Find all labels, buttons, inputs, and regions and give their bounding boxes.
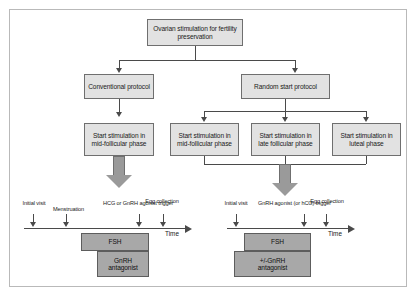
- timeline-left-bar-gnrh-antagonist-line2: antagonist: [108, 264, 137, 271]
- timeline-right-label-egg-collection-line2: collection: [321, 198, 343, 204]
- connector-random-stem: [285, 99, 286, 111]
- arrowhead-to-rand-mid: [201, 117, 207, 122]
- node-random-start-protocol-label: Random start protocol: [252, 83, 319, 90]
- timeline-right-bar-fsh: FSH: [244, 233, 311, 251]
- block-arrow-right-head: [272, 183, 298, 196]
- timeline-left-label-trigger-line1: HCG or GnRH: [103, 200, 138, 206]
- node-conventional-mid-follicular-label: Start stimulation in mid-follicular phas…: [85, 132, 153, 147]
- timeline-right-label-initial-visit-line1: Initial: [225, 200, 237, 206]
- timeline-left-axis-label: Time: [165, 230, 179, 237]
- timeline-right-tick-3-head: [323, 222, 329, 227]
- timeline-right-bar-gnrh-antagonist: +/-GnRH antagonist: [234, 251, 311, 277]
- block-arrow-right-shaft: [279, 164, 291, 184]
- timeline-right-axis-label: Time: [328, 230, 342, 237]
- timeline-right-bar-fsh-label: FSH: [271, 238, 284, 245]
- timeline-left-label-egg-collection-line2: collection: [156, 198, 178, 204]
- timeline-left-label-egg-collection-line1: Egg: [145, 198, 155, 204]
- timeline-left-axis-arrowhead: [185, 225, 192, 233]
- arrowhead-to-random: [292, 68, 298, 73]
- timeline-left-label-initial-visit-line1: Initial: [23, 200, 35, 206]
- timeline-right-tick-2-head: [301, 222, 307, 227]
- node-conventional-protocol-label: Conventional protocol: [86, 83, 152, 90]
- node-random-late-follicular: Start stimulation in late follicular pha…: [251, 123, 320, 156]
- node-random-start-protocol: Random start protocol: [241, 74, 330, 99]
- node-conventional-protocol: Conventional protocol: [84, 74, 154, 99]
- timeline-left-label-menstruation-line1: Menstruation: [53, 206, 84, 212]
- timeline-left-tick-3-head: [136, 222, 142, 227]
- node-conventional-mid-follicular: Start stimulation in mid-follicular phas…: [84, 123, 154, 156]
- connector-conventional-stem: [119, 99, 120, 113]
- timeline-left-tick-2-head: [63, 222, 69, 227]
- node-random-luteal-label: Start stimulation in luteal phase: [333, 132, 400, 147]
- timeline-left-tick-1-head: [30, 222, 36, 227]
- timeline-right-axis-arrowhead: [348, 225, 355, 233]
- block-arrow-left: [106, 156, 132, 189]
- timeline-left-bar-gnrh-antagonist-line1: GnRH: [108, 257, 137, 264]
- timeline-left-bar-fsh: FSH: [81, 233, 149, 251]
- arrowhead-to-rand-luteal: [363, 117, 369, 122]
- arrowhead-to-conv-mid: [116, 112, 122, 117]
- connector-rand-luteal-down: [366, 156, 367, 164]
- timeline-right-label-trigger-line1: GnRH agonist: [258, 200, 292, 206]
- timeline-left-axis: [24, 228, 186, 229]
- timeline-right-label-initial-visit-line2: visit: [238, 200, 247, 206]
- connector-rand-mid-down: [204, 156, 205, 164]
- arrowhead-to-rand-late: [282, 117, 288, 122]
- node-random-mid-follicular-label: Start stimulation in mid-follicular phas…: [171, 132, 238, 147]
- timeline-right-bar-gnrh-antagonist-line1: +/-GnRH: [258, 257, 287, 264]
- node-root: Ovarian stimulation for fertility preser…: [147, 19, 243, 46]
- node-random-luteal: Start stimulation in luteal phase: [332, 123, 401, 156]
- timeline-left-tick-4-head: [160, 222, 166, 227]
- timeline-right-label-egg-collection: Egg collection: [304, 198, 350, 204]
- connector-rand-late-down: [285, 156, 286, 164]
- node-random-mid-follicular: Start stimulation in mid-follicular phas…: [170, 123, 239, 156]
- timeline-right-bar-gnrh-antagonist-line2: antagonist: [258, 264, 287, 271]
- timeline-left-bar-fsh-label: FSH: [109, 238, 122, 245]
- connector-root-split: [119, 60, 295, 61]
- node-random-late-follicular-label: Start stimulation in late follicular pha…: [252, 132, 319, 147]
- diagram-frame: Ovarian stimulation for fertility preser…: [9, 9, 407, 287]
- diagram-canvas: Ovarian stimulation for fertility preser…: [0, 0, 418, 298]
- block-arrow-left-head: [106, 175, 132, 188]
- timeline-left-label-egg-collection: Egg collection: [139, 198, 185, 204]
- connector-root-stem: [195, 46, 196, 60]
- timeline-right-label-initial-visit: Initial visit: [218, 200, 254, 206]
- block-arrow-left-shaft: [113, 156, 125, 176]
- node-root-label: Ovarian stimulation for fertility preser…: [148, 25, 242, 40]
- timeline-right-tick-1-head: [233, 222, 239, 227]
- timeline-left-bar-gnrh-antagonist: GnRH antagonist: [97, 251, 149, 277]
- block-arrow-right: [272, 164, 298, 197]
- timeline-right-label-egg-collection-line1: Egg: [310, 198, 320, 204]
- timeline-left-label-menstruation: Menstruation: [37, 206, 100, 212]
- arrowhead-to-conventional: [116, 68, 122, 73]
